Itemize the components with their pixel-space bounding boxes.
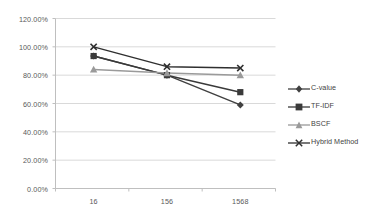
triangle-marker-icon: [288, 117, 310, 129]
diamond-marker-icon: [288, 81, 310, 93]
x-marker-icon: [288, 135, 310, 147]
legend-item-c-value[interactable]: C-value: [288, 78, 372, 96]
legend-label-tf-idf: TF-IDF: [311, 101, 334, 110]
legend-item-hybrid-method[interactable]: Hybrid Method: [288, 132, 372, 150]
x-tick-label: 1568: [232, 197, 248, 206]
legend-label-hybrid-method: Hybrid Method: [311, 137, 358, 146]
square-marker-icon: [288, 99, 310, 111]
x-tick-label: 156: [161, 197, 173, 206]
chart-legend: C-value TF-IDF BSCF: [288, 78, 372, 150]
legend-label-bscf: BSCF: [311, 119, 330, 128]
legend-label-c-value: C-value: [311, 83, 336, 92]
legend-item-tf-idf[interactable]: TF-IDF: [288, 96, 372, 114]
chart-container: 0.00%20.00%40.00%60.00%80.00%100.00%120.…: [0, 0, 372, 217]
legend-item-bscf[interactable]: BSCF: [288, 114, 372, 132]
x-tick-label: 16: [90, 197, 98, 206]
